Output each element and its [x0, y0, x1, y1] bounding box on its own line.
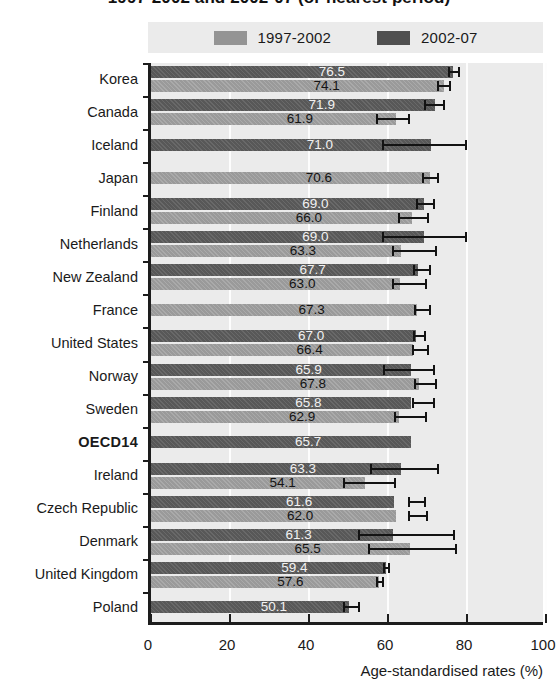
y-axis-tick — [143, 195, 151, 197]
ci-cap-low — [408, 511, 410, 521]
ci-cap-high — [425, 412, 427, 422]
bar-2002-07 — [151, 601, 349, 613]
bar-group: 59.457.6 — [151, 559, 543, 592]
bar-1997-2002 — [151, 245, 401, 257]
ci-cap-low — [412, 398, 414, 408]
category-label-finland: Finland — [0, 204, 138, 219]
ci-cap-low — [382, 140, 384, 150]
ci-cap-high — [433, 365, 435, 375]
category-label-norway: Norway — [0, 369, 138, 384]
bar-value-label: 50.1 — [261, 601, 287, 613]
bar-1997-2002 — [151, 378, 419, 390]
category-label-ireland: Ireland — [0, 468, 138, 483]
bar-group: 67.763.0 — [151, 261, 543, 294]
bar-value-label: 67.8 — [300, 378, 326, 390]
bar-value-label: 61.6 — [286, 496, 312, 508]
bar-2002-07 — [151, 397, 411, 409]
confidence-interval-bar — [414, 383, 438, 385]
ci-cap-high — [426, 511, 428, 521]
y-axis-tick — [143, 427, 151, 429]
ci-cap-high — [458, 67, 460, 77]
ci-cap-low — [398, 213, 400, 223]
confidence-interval-bar — [412, 349, 430, 351]
bar-value-label: 62.9 — [289, 411, 315, 423]
bar-value-label: 65.9 — [295, 364, 321, 376]
bar-group: 65.967.8 — [151, 361, 543, 394]
confidence-interval-bar — [370, 468, 439, 470]
x-axis-tick-label: 0 — [144, 636, 152, 653]
confidence-interval-bar — [392, 283, 428, 285]
ci-cap-low — [424, 100, 426, 110]
category-label-netherlands: Netherlands — [0, 237, 138, 252]
confidence-interval-bar — [358, 534, 455, 536]
category-label-denmark: Denmark — [0, 534, 138, 549]
x-axis-tick — [545, 614, 547, 623]
confidence-interval-bar — [437, 85, 451, 87]
ci-cap-high — [433, 398, 435, 408]
bar-2002-07 — [151, 99, 435, 111]
gridline — [545, 63, 547, 622]
ci-cap-high — [433, 199, 435, 209]
bar-value-label: 66.4 — [297, 344, 323, 356]
bar-value-label: 65.8 — [295, 397, 321, 409]
confidence-interval-bar — [343, 606, 361, 608]
bar-1997-2002 — [151, 477, 365, 489]
bar-group: 71.0 — [151, 129, 543, 162]
y-axis-tick — [143, 592, 151, 594]
y-axis-tick — [143, 129, 151, 131]
ci-cap-high — [358, 602, 360, 612]
category-label-united-kingdom: United Kingdom — [0, 567, 138, 582]
bar-value-label: 67.7 — [299, 264, 325, 276]
bar-value-label: 65.5 — [295, 543, 321, 555]
bar-2002-07 — [151, 463, 401, 475]
bar-value-label: 63.3 — [290, 245, 316, 257]
bar-value-label: 69.0 — [302, 231, 328, 243]
ci-cap-low — [392, 246, 394, 256]
ci-cap-high — [394, 478, 396, 488]
confidence-interval-bar — [376, 118, 410, 120]
confidence-interval-bar — [368, 548, 457, 550]
ci-cap-high — [429, 305, 431, 315]
confidence-interval-bar — [413, 335, 425, 337]
ci-cap-high — [427, 213, 429, 223]
ci-cap-high — [435, 246, 437, 256]
bar-2002-07 — [151, 66, 453, 78]
legend-swatch-icon-1997-2002 — [214, 31, 247, 45]
confidence-interval-bar — [394, 416, 428, 418]
ci-cap-high — [425, 279, 427, 289]
category-label-united-states: United States — [0, 336, 138, 351]
bar-2002-07 — [151, 364, 411, 376]
x-axis-tick-label: 60 — [377, 636, 394, 653]
bar-group: 69.063.3 — [151, 228, 543, 261]
confidence-interval-bar — [398, 217, 430, 219]
y-axis-tick — [143, 261, 151, 263]
legend-label-2002-07: 2002-07 — [421, 29, 477, 46]
legend-label-1997-2002: 1997-2002 — [258, 29, 332, 46]
bar-value-label: 65.7 — [295, 436, 321, 448]
ci-cap-low — [358, 530, 360, 540]
ci-cap-low — [376, 577, 378, 587]
ci-cap-low — [383, 365, 385, 375]
bar-value-label: 74.1 — [313, 80, 339, 92]
bar-value-label: 67.3 — [299, 304, 325, 316]
bar-1997-2002 — [151, 411, 399, 423]
confidence-interval-bar — [343, 482, 396, 484]
bar-group: 65.862.9 — [151, 394, 543, 427]
ci-cap-high — [424, 497, 426, 507]
category-axis-labels: KoreaCanadaIcelandJapanFinlandNetherland… — [0, 62, 146, 625]
ci-cap-high — [427, 345, 429, 355]
y-axis-tick — [143, 394, 151, 396]
ci-cap-high — [465, 140, 467, 150]
bar-group: 65.7 — [151, 427, 543, 460]
bar-2002-07 — [151, 198, 424, 210]
ci-cap-high — [465, 232, 467, 242]
x-axis-tick-labels: 020406080100 — [0, 636, 558, 656]
bar-2002-07 — [151, 562, 386, 574]
bar-1997-2002 — [151, 113, 396, 125]
category-label-canada: Canada — [0, 105, 138, 120]
bar-value-label: 59.4 — [281, 562, 307, 574]
confidence-interval-bar — [383, 567, 390, 569]
category-label-korea: Korea — [0, 72, 138, 87]
ci-cap-low — [437, 81, 439, 91]
bar-1997-2002 — [151, 80, 444, 92]
